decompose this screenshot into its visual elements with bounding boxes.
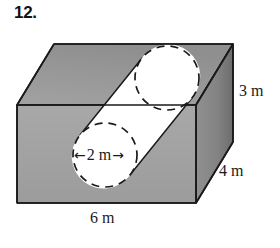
cylinder-back-opening <box>135 46 199 110</box>
dimension-label-diameter-group: ← 2 m → <box>74 147 124 163</box>
dimension-label-depth: 4 m <box>219 163 243 179</box>
arrow-right-icon: → <box>112 148 124 162</box>
dimension-label-diameter: 2 m <box>86 147 112 163</box>
dimension-label-width: 6 m <box>90 210 114 226</box>
figure-container: 12. <box>0 0 280 248</box>
prism-cylinder-diagram <box>0 0 280 248</box>
arrow-left-icon: ← <box>74 148 86 162</box>
dimension-label-height: 3 m <box>239 83 263 99</box>
